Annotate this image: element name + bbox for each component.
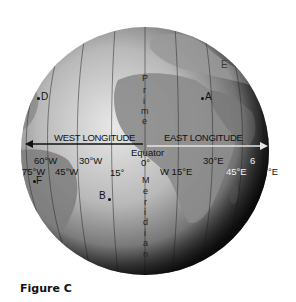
meridian-letter: n (143, 250, 148, 259)
longitude-30w: 30°W (79, 156, 102, 166)
prime-letter: r (143, 86, 146, 95)
longitude-0: 0° (141, 158, 150, 168)
longitude-15w: 15° (110, 168, 124, 178)
longitude-60w: 60°W (34, 156, 57, 166)
longitude-15e: W 15°E (160, 167, 192, 177)
point-d-dot (37, 97, 40, 100)
east-longitude-label: EAST LONGITUDE (164, 133, 243, 143)
point-a-label: A (205, 92, 212, 102)
meridian-letter: i (144, 229, 146, 238)
longitude-75e: °E (268, 167, 278, 177)
prime-letter: e (142, 117, 147, 126)
prime-letter: i (143, 97, 145, 106)
meridian-letter: i (144, 208, 146, 217)
point-e-label: E (221, 60, 228, 70)
longitude-45e: 45°E (226, 167, 247, 177)
longitude-30e: 30°E (203, 156, 224, 166)
longitude-45w: 45°W (55, 167, 78, 177)
point-f-label: F (36, 176, 42, 186)
meridian-letter: d (143, 218, 148, 227)
longitude-60e: 6 (250, 156, 255, 166)
point-b-label: B (99, 191, 106, 201)
west-longitude-label: WEST LONGITUDE (54, 133, 135, 143)
meridian-letter: r (144, 198, 147, 207)
figure-caption: Figure C (20, 282, 72, 295)
point-b-dot (108, 198, 111, 201)
meridian-letter: M (142, 176, 150, 185)
meridian-letter: e (143, 187, 148, 196)
globe-figure: WEST LONGITUDE EAST LONGITUDE Equator P … (0, 0, 296, 302)
point-a-dot (201, 97, 204, 100)
meridian-letter: a (143, 239, 148, 248)
prime-letter: P (142, 74, 148, 83)
point-d-label: D (41, 92, 48, 102)
prime-letter: m (141, 107, 149, 116)
